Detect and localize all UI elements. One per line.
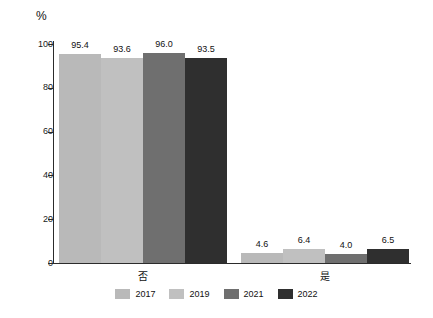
legend-label: 2019	[189, 290, 209, 299]
y-axis-tick-mark	[48, 219, 53, 220]
y-axis-tick-mark	[48, 263, 53, 264]
x-axis-category-label: 否	[103, 268, 183, 283]
legend-label: 2021	[244, 290, 264, 299]
bar-2022-yes[interactable]	[367, 249, 409, 263]
bar-value-label: 96.0	[143, 40, 185, 49]
legend-item-2019[interactable]: 2019	[169, 289, 209, 299]
bar-2019-no[interactable]	[101, 58, 143, 263]
y-axis-tick-mark	[48, 88, 53, 89]
bar-chart: % 100806040200 95.493.696.093.54.66.44.0…	[0, 0, 433, 318]
legend-item-2017[interactable]: 2017	[115, 289, 155, 299]
legend-label: 2022	[298, 290, 318, 299]
bar-value-label: 95.4	[59, 41, 101, 50]
x-axis-category-label: 是	[285, 268, 365, 283]
legend-swatch-icon	[224, 289, 239, 299]
legend-swatch-icon	[169, 289, 184, 299]
bar-2021-yes[interactable]	[325, 254, 367, 263]
bar-value-label: 4.6	[241, 240, 283, 249]
y-axis-tick-mark	[48, 132, 53, 133]
legend-item-2021[interactable]: 2021	[224, 289, 264, 299]
bar-value-label: 93.5	[185, 45, 227, 54]
legend: 2017201920212022	[0, 289, 433, 299]
bar-2021-no[interactable]	[143, 53, 185, 263]
bar-value-label: 6.4	[283, 236, 325, 245]
legend-swatch-icon	[278, 289, 293, 299]
legend-label: 2017	[135, 290, 155, 299]
bar-2017-yes[interactable]	[241, 253, 283, 263]
bar-2022-no[interactable]	[185, 58, 227, 263]
bar-value-label: 93.6	[101, 45, 143, 54]
bar-value-label: 6.5	[367, 236, 409, 245]
x-axis-line	[53, 263, 411, 264]
y-axis-tick-mark	[48, 44, 53, 45]
bar-2019-yes[interactable]	[283, 249, 325, 263]
y-axis-line	[53, 41, 54, 264]
bar-value-label: 4.0	[325, 241, 367, 250]
y-axis-tick-mark	[48, 175, 53, 176]
legend-swatch-icon	[115, 289, 130, 299]
bar-2017-no[interactable]	[59, 54, 101, 263]
legend-item-2022[interactable]: 2022	[278, 289, 318, 299]
y-axis-unit-label: %	[36, 9, 47, 23]
